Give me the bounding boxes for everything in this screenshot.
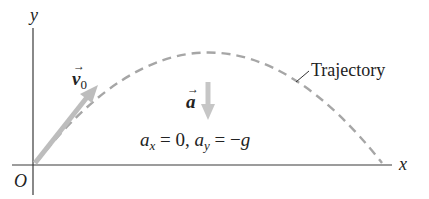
trajectory-label: Trajectory (311, 61, 385, 79)
x-axis-label: x (399, 155, 407, 173)
origin-label: O (14, 172, 27, 190)
acceleration-label: →a (186, 92, 196, 111)
acceleration-arrow-icon (201, 82, 215, 120)
trajectory-leader-line (296, 71, 309, 82)
projectile-diagram (0, 0, 429, 199)
velocity-label: →v0 (72, 69, 87, 88)
y-axis-label: y (30, 6, 38, 24)
acceleration-equation: ax = 0, ay = −g (140, 130, 250, 149)
velocity-arrow-icon (35, 85, 98, 163)
